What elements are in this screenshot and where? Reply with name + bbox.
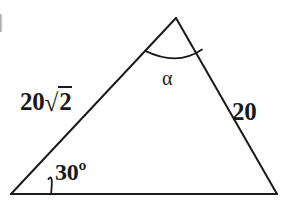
figure-canvas: 20√2 20 30º α (0, 0, 292, 201)
side-length-label-left: 20√2 (19, 89, 72, 114)
cropped-edge-artifact (0, 14, 3, 32)
side-left-radicand: 2 (58, 86, 72, 115)
triangle-side-right (176, 18, 277, 194)
side-length-label-right: 20 (232, 99, 257, 124)
radical-sign-icon: √ (45, 90, 59, 115)
angle-label-apex-alpha: α (162, 68, 172, 88)
angle-arc-base-left (48, 177, 51, 194)
side-left-coefficient: 20 (20, 88, 45, 115)
angle-arc-apex (145, 50, 202, 59)
angle-label-base-left: 30º (55, 160, 86, 184)
